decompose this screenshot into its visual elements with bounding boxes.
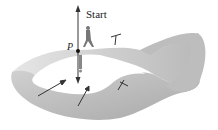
walker-top-icon [83,26,94,47]
mobius-strip-diagram [0,0,218,130]
start-label: Start [86,8,107,20]
point-p-label: P [67,41,73,52]
